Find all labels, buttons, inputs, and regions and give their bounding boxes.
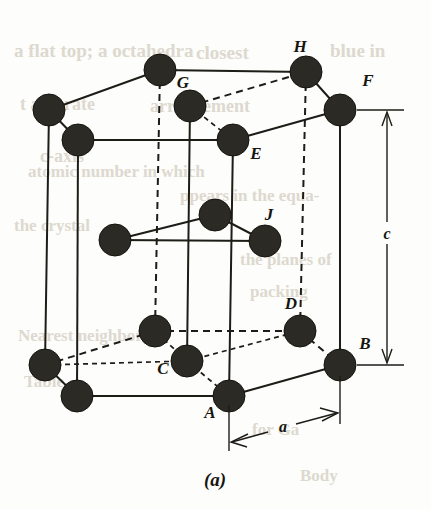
atom-top-back-mid[interactable] [144, 54, 176, 86]
edge-top-F-E [233, 110, 340, 140]
figure-caption: (a) [204, 469, 226, 491]
atom-bottom-front-left[interactable] [61, 380, 93, 412]
edge-vertical-backleft [45, 110, 49, 365]
edge-vertical-E-A [229, 140, 233, 396]
atom-middle-top[interactable] [199, 199, 231, 231]
atom-G[interactable] [174, 90, 206, 122]
label-B: B [358, 334, 370, 353]
edge-dashed-vertical-back-mid [155, 70, 160, 331]
atom-F[interactable] [324, 94, 356, 126]
label-F: F [361, 71, 374, 90]
atom-E[interactable] [217, 124, 249, 156]
edge-dashed-bottom-backleft-backmid [45, 331, 155, 365]
label-D: D [284, 294, 297, 313]
edge-top-backmid-H [160, 70, 306, 72]
label-G: G [177, 73, 190, 92]
dim-a-shaft-right [296, 413, 337, 424]
atom-middle-left[interactable] [99, 224, 131, 256]
hcp-crystal-figure: a flat top; a octahedraclosestblue int a… [0, 0, 431, 509]
dim-c-label: c [383, 225, 390, 242]
label-H: H [292, 37, 307, 56]
atom-C[interactable] [171, 345, 203, 377]
label-E: E [249, 144, 261, 163]
edge-top-backleft-backmid [49, 70, 160, 110]
dim-a-label: a [279, 418, 287, 435]
bond-mid-left-right [115, 240, 265, 241]
atom-D[interactable] [284, 315, 316, 347]
bond-dashed-C-D [187, 331, 300, 361]
atom-bottom-back-left[interactable] [29, 349, 61, 381]
atom-bottom-back-mid[interactable] [139, 315, 171, 347]
edge-dashed-Gcenter-H [190, 72, 306, 106]
atom-group-middle-plane [99, 199, 281, 257]
edge-dashed-vertical-H-D [300, 72, 306, 331]
dimension-c: c [357, 110, 404, 365]
atom-top-back-left[interactable] [33, 94, 65, 126]
dim-a-shaft-left [232, 432, 268, 442]
edge-bottom-A-B [229, 365, 340, 396]
label-A: A [203, 403, 215, 422]
label-J: J [264, 205, 274, 224]
atom-J[interactable] [249, 225, 281, 257]
edge-vertical-frontleft [77, 140, 78, 396]
atom-H[interactable] [290, 56, 322, 88]
dimension-a: a [229, 376, 340, 451]
label-C: C [157, 359, 169, 378]
atom-top-front-left[interactable] [62, 124, 94, 156]
hcp-unit-cell-drawing: H G F E J D B C A c [0, 0, 431, 509]
edge-vertical-G-C [187, 106, 190, 361]
